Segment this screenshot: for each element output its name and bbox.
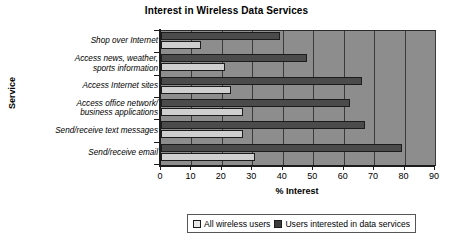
x-axis-tick [251, 166, 252, 170]
x-axis-label: 10 [178, 171, 202, 181]
bar-all-wireless-users [161, 41, 201, 49]
bar-group [161, 31, 435, 53]
x-axis-tick [343, 166, 344, 170]
bar-group [161, 120, 435, 142]
x-axis-label: 20 [209, 171, 233, 181]
legend-label: All wireless users [204, 219, 270, 229]
bar-users-interested-in-data-services [161, 121, 365, 129]
bar-users-interested-in-data-services [161, 99, 350, 107]
y-axis-tick [154, 164, 160, 165]
y-axis-label-line: sports information [8, 64, 158, 74]
bar-group [161, 143, 435, 165]
legend-swatch-icon [193, 220, 201, 228]
x-axis-label: 70 [361, 171, 385, 181]
x-axis-tick [373, 166, 374, 170]
x-axis-tick [160, 166, 161, 170]
legend-item: Users interested in data services [274, 219, 410, 229]
y-axis-tick [154, 142, 160, 143]
bar-all-wireless-users [161, 86, 231, 94]
bar-all-wireless-users [161, 108, 243, 116]
bar-users-interested-in-data-services [161, 77, 362, 85]
x-axis-label: 90 [422, 171, 446, 181]
bar-group [161, 98, 435, 120]
bar-group [161, 53, 435, 75]
x-axis-label: 80 [392, 171, 416, 181]
y-axis-tick [154, 30, 160, 31]
y-axis-label-line: Shop over Internet [8, 36, 158, 46]
y-axis-label-line: Access Internet sites [8, 81, 158, 91]
x-axis-tick [221, 166, 222, 170]
y-axis-label-line: Access news, weather, [8, 54, 158, 64]
gridline [435, 31, 436, 165]
y-axis-tick [154, 75, 160, 76]
bar-all-wireless-users [161, 63, 225, 71]
x-axis-tick [404, 166, 405, 170]
legend-swatch-icon [274, 220, 282, 228]
y-axis-tick [154, 119, 160, 120]
y-axis-label: Access Internet sites [8, 81, 158, 91]
chart-legend: All wireless usersUsers interested in da… [187, 214, 416, 233]
y-axis-label-line: business applications [8, 108, 158, 118]
x-axis-tick [434, 166, 435, 170]
y-axis-label-line: Send/receive email [8, 148, 158, 158]
x-axis-title: % Interest [160, 186, 434, 196]
bar-users-interested-in-data-services [161, 54, 307, 62]
y-axis-label-line: Access office network/ [8, 99, 158, 109]
x-axis-label: 30 [239, 171, 263, 181]
y-axis-label: Shop over Internet [8, 36, 158, 46]
y-axis-label: Access news, weather,sports information [8, 54, 158, 73]
bar-group [161, 76, 435, 98]
legend-item: All wireless users [193, 219, 270, 229]
x-axis-label: 0 [148, 171, 172, 181]
bar-users-interested-in-data-services [161, 32, 280, 40]
x-axis-line [159, 165, 435, 167]
legend-label: Users interested in data services [285, 219, 410, 229]
y-axis-label: Send/receive email [8, 148, 158, 158]
bar-users-interested-in-data-services [161, 144, 402, 152]
x-axis-label: 60 [331, 171, 355, 181]
y-axis-label-line: Send/receive text messages [8, 126, 158, 136]
y-axis-label: Send/receive text messages [8, 126, 158, 136]
x-axis-tick [282, 166, 283, 170]
bar-all-wireless-users [161, 130, 243, 138]
chart-title: Interest in Wireless Data Services [0, 5, 453, 16]
plot-area [160, 30, 436, 166]
x-axis-label: 50 [300, 171, 324, 181]
x-axis-tick [312, 166, 313, 170]
chart-container: Interest in Wireless Data Services Servi… [0, 0, 453, 241]
y-axis-label: Access office network/business applicati… [8, 99, 158, 118]
bar-all-wireless-users [161, 153, 255, 161]
x-axis-tick [190, 166, 191, 170]
x-axis-label: 40 [270, 171, 294, 181]
